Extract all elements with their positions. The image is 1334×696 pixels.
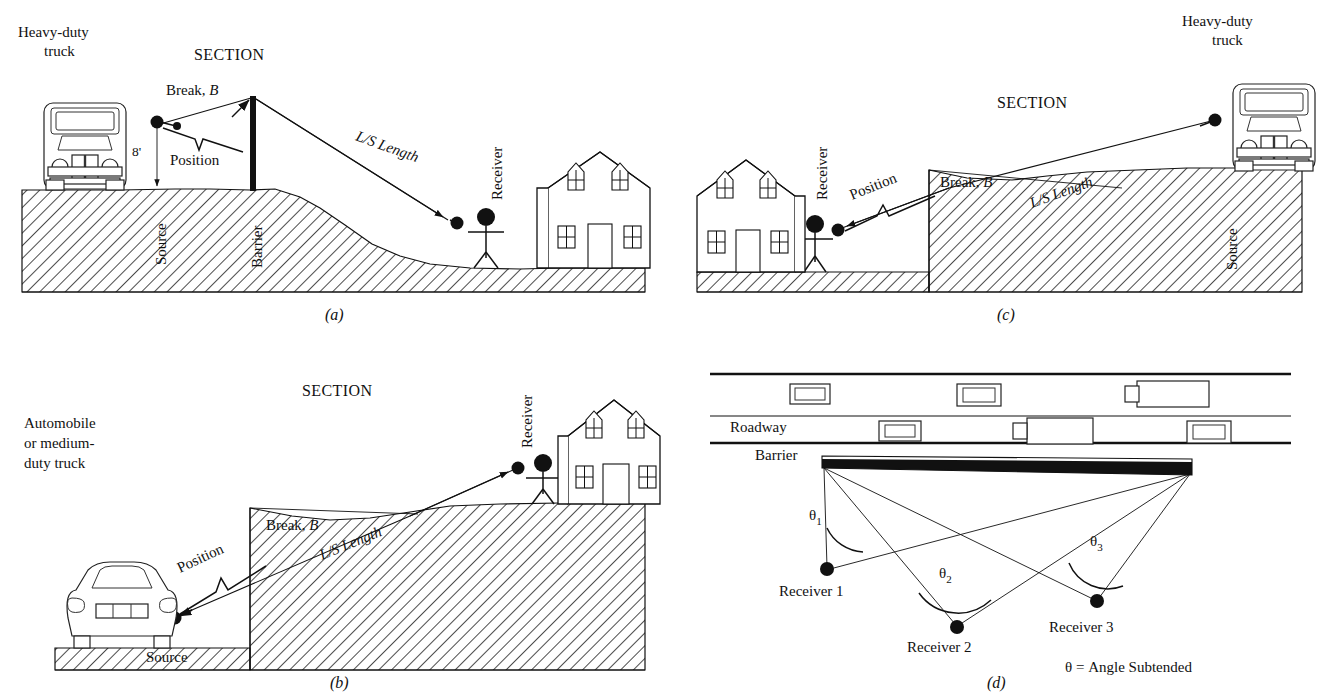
theta-2-arc [919, 593, 991, 613]
break-label-a-text: Break, [166, 82, 209, 98]
panel-key-d: (d) [987, 674, 1006, 692]
break-label-a-italic-b: B [209, 82, 218, 98]
vehicle-automobile-b [67, 562, 177, 648]
theta-1-arc [827, 528, 863, 552]
receiver-2-dot [950, 620, 964, 634]
panel-key-b: (b) [330, 674, 349, 692]
lane-lower-vehicle-car-2 [1187, 421, 1231, 443]
house-c [697, 160, 805, 272]
receiver-1-label: Receiver 1 [779, 583, 844, 599]
stick-figure-b [526, 454, 561, 504]
position-brace-c [845, 196, 935, 231]
source-point-c [1209, 114, 1222, 127]
vehicle-label-c-line1: Heavy-duty [1182, 13, 1253, 29]
vehicle-label-a-line2: truck [44, 43, 75, 59]
vehicle-label-b-line3: duty truck [24, 455, 86, 471]
receiver-3-label: Receiver 3 [1049, 619, 1114, 635]
theta-1-sub: 1 [816, 515, 822, 527]
break-label-c-text: Break, [940, 174, 983, 190]
break-label-b-text: Break, [266, 517, 309, 533]
vehicle-label-b-line1: Automobile [24, 415, 96, 431]
theta-2-sub: 2 [946, 573, 952, 585]
sight-lines-d [824, 468, 1190, 625]
receiver-label-a: Receiver [489, 147, 505, 200]
panel-b: Automobile or medium- duty truck SECTION… [0, 348, 667, 696]
house-a [537, 152, 650, 268]
lane-lower-vehicle-car-1 [879, 421, 921, 441]
source-label-a: Source [153, 223, 169, 265]
break-label-c-italic-b: B [983, 174, 992, 190]
position-label-c: Position [847, 169, 899, 202]
panel-c-svg: Heavy-duty truck SECTION Break, B Positi… [667, 0, 1334, 348]
receiver-3-dot [1090, 594, 1104, 608]
section-label-b: SECTION [302, 382, 372, 399]
break-label-c: Break, B [940, 174, 993, 190]
theta-1-base: θ [809, 507, 816, 523]
theta-1-label: θ1 [809, 507, 822, 527]
receiver-mic-b [512, 462, 525, 475]
position-label-a: Position [170, 152, 220, 168]
section-label-a: SECTION [194, 46, 264, 63]
panel-b-svg: Automobile or medium- duty truck SECTION… [0, 348, 667, 696]
position-label-b: Position [175, 540, 227, 575]
panel-a: 8' Heavy-duty truck SECTION Break, B Pos… [0, 0, 667, 348]
vehicle-heavy-duty-truck-c [1233, 84, 1315, 171]
source-label-b: Source [146, 649, 188, 665]
theta-3-base: θ [1090, 533, 1097, 549]
panel-a-svg: 8' Heavy-duty truck SECTION Break, B Pos… [0, 0, 667, 348]
position-brace-a [163, 128, 243, 152]
panel-d: Roadway Barrier θ1 [667, 348, 1334, 696]
receiver-label-b: Receiver [519, 395, 535, 448]
source-stub-cap-a [173, 122, 181, 130]
lane-lower-vehicle-truck-1 [1013, 418, 1093, 444]
receiver-mic-c [832, 224, 845, 237]
vehicle-heavy-duty-truck-a [44, 103, 126, 190]
lane-upper-vehicle-car-2 [957, 384, 1001, 406]
barrier-label-d: Barrier [755, 447, 797, 463]
panel-key-c: (c) [997, 306, 1015, 324]
panel-key-a: (a) [325, 306, 344, 324]
theta-2-base: θ [939, 565, 946, 581]
receiver-label-c: Receiver [814, 147, 830, 200]
section-label-c: SECTION [997, 94, 1067, 111]
vehicle-label-b-line2: or medium- [24, 435, 94, 451]
break-label-b-italic-b: B [309, 517, 318, 533]
theta-3-sub: 3 [1097, 541, 1103, 553]
height-dimension-label-a: 8' [132, 144, 141, 159]
theta-2-label: θ2 [939, 565, 952, 585]
stick-figure-a [468, 208, 504, 268]
lane-upper-vehicle-car-1 [790, 384, 830, 404]
figure-root: 8' Heavy-duty truck SECTION Break, B Pos… [0, 0, 1334, 696]
angle-subtended-note: θ = Angle Subtended [1065, 659, 1192, 675]
vehicle-label-c-line2: truck [1212, 32, 1243, 48]
receiver-2-label: Receiver 2 [907, 639, 972, 655]
break-label-b: Break, B [266, 517, 319, 533]
ls-length-label-a: L/S Length [353, 127, 421, 165]
barrier-label-a: Barrier [249, 226, 265, 268]
panel-d-svg: Roadway Barrier θ1 [667, 348, 1334, 696]
ground-low-c [697, 272, 929, 292]
house-b [558, 400, 660, 504]
source-label-c: Source [1224, 228, 1240, 270]
barrier-strip-d [822, 459, 1192, 475]
theta-3-label: θ3 [1090, 533, 1103, 553]
panel-c: Heavy-duty truck SECTION Break, B Positi… [667, 0, 1334, 348]
receiver-1-dot [820, 562, 834, 576]
break-label-a: Break, B [166, 82, 219, 98]
lane-upper-vehicle-truck-1 [1125, 381, 1209, 407]
roadway-label: Roadway [730, 419, 787, 435]
vehicle-label-a-line1: Heavy-duty [18, 24, 89, 40]
